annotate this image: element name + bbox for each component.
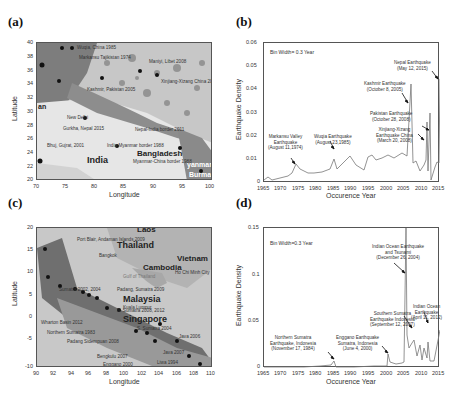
map-c-ylabel: Latitude: [11, 281, 18, 306]
country-vietnam: Vietnam: [177, 254, 208, 263]
chart-d-annotation: Enggano Earthquake Sumatra, Indonesia (J…: [336, 335, 379, 352]
place-label: Wharton Basin 2012: [41, 320, 83, 325]
place-label: Xinjiang-Xizang China 2008: [161, 79, 212, 84]
chart-d-ylabel: Earthquake Density: [235, 265, 242, 326]
place-label: Nepal-India border 2011: [135, 127, 184, 132]
chart-d-annotation: Indian Ocean Earthquake (April 11, 2012): [411, 304, 442, 321]
place-label: Java 2007: [163, 350, 184, 355]
chart-d-annotation: Indian Ocean Earthquake and Tsunami (Dec…: [372, 244, 424, 261]
chart-b-annotation: Kashmir Earthquake (October 8, 2005): [364, 81, 406, 92]
place-label: Ho Chi Minh City: [175, 270, 209, 275]
panel-b-label: (b): [236, 14, 252, 30]
place-label: Bengkulu 2007: [97, 354, 128, 359]
chart-b-annotation: Wuqia Earthquake (August 23,1985): [314, 134, 352, 145]
country-myanmar: yanmar: [187, 161, 212, 168]
place-label: Padang Sidempuan 2008: [67, 339, 119, 344]
place-label: New Delhi: [67, 115, 88, 120]
chart-d-annotation: Southern Sumatra Earthquake Indonesia (S…: [370, 311, 415, 328]
place-label: Bangkok: [99, 253, 117, 258]
place-label: Gurkha, Nepal 2015: [63, 126, 104, 131]
chart-d-xlabel: Occurence Year: [326, 378, 376, 385]
country-burma: Burma: [189, 171, 211, 178]
chart-b-plot-area: Bin Width= 0.3 Year Markansu Valley Eart…: [263, 42, 439, 182]
chart-b-annotation: Xinjiang-Xizang Earthquake China (March …: [376, 127, 413, 144]
chart-b-annotation: Markansu Valley Earthquake (August 11,19…: [268, 134, 303, 151]
place-label: Maniyi, Libet 2008: [149, 59, 186, 64]
chart-d-annotation: Northern Sumatra Earthquake, Indonesia (…: [270, 335, 316, 352]
place-label: Northern Sumatra 1983: [47, 330, 95, 335]
chart-b-ylabel: Earthquake Density: [235, 79, 242, 140]
country-pakistan: an: [38, 103, 46, 110]
map-a-himalaya: Wuqia, China 1985 Markansu Tajikistan 19…: [36, 42, 212, 180]
map-c-xlabel: Longitude: [109, 378, 140, 385]
country-india: India: [87, 155, 108, 165]
map-a-ylabel: Latitude: [11, 96, 18, 121]
place-label: Kuala Lumpur: [123, 305, 152, 310]
place-label: Wuqia, China 1985: [77, 45, 116, 50]
chart-d-bin-width: Bin Width=0.3 Year: [270, 240, 313, 246]
place-label: Kashmir, Pakistan 2005: [87, 87, 135, 92]
place-label: Port Blair, Andaman Islands 2009: [77, 237, 145, 242]
place-label: Myanmar-China border 1988: [133, 159, 192, 164]
place-label: Liwa 1994: [157, 360, 178, 365]
place-label: Gulf of Thailand: [123, 274, 155, 279]
place-label: S. Sumatra 2004: [137, 326, 171, 331]
panel-a-label: (a): [8, 14, 23, 30]
chart-b-annotation: Pakistan Earthquake (October 28, 2008): [370, 111, 412, 122]
country-laos: Laos: [137, 227, 156, 234]
chart-b-bin-width: Bin Width= 0.3 Year: [270, 49, 314, 55]
chart-b-annotation: Nepal Earthquake (May 12, 2015): [394, 60, 431, 71]
country-malaysia: Malaysia: [123, 294, 161, 304]
place-label: Bhuj, Gujrat, 2001: [47, 143, 84, 148]
panel-d-label: (d): [236, 195, 252, 211]
chart-d-plot-area: Bin Width=0.3 Year Northern Sumatra Eart…: [263, 227, 439, 367]
chart-b-xlabel: Occurence Year: [326, 192, 376, 199]
place-label: Enggano 2000: [103, 362, 133, 367]
place-label: Sumatra 2002, 2004: [59, 287, 101, 292]
map-a-xlabel: Longitude: [109, 191, 140, 198]
country-singapore: Singapore: [123, 314, 167, 324]
place-label: India-Myanmar border 1988: [107, 143, 164, 148]
country-bangladesh: Bangladesh: [137, 149, 182, 158]
panel-c-label: (c): [8, 195, 22, 211]
place-label: Java 2006: [179, 334, 200, 339]
place-label: Markansu Tajikistan 1974: [79, 55, 131, 60]
place-label: Padang, Sumatra 2009: [117, 287, 164, 292]
map-c-sumatra: Laos Thailand Vietnam Cambodia Malaysia …: [36, 227, 212, 367]
